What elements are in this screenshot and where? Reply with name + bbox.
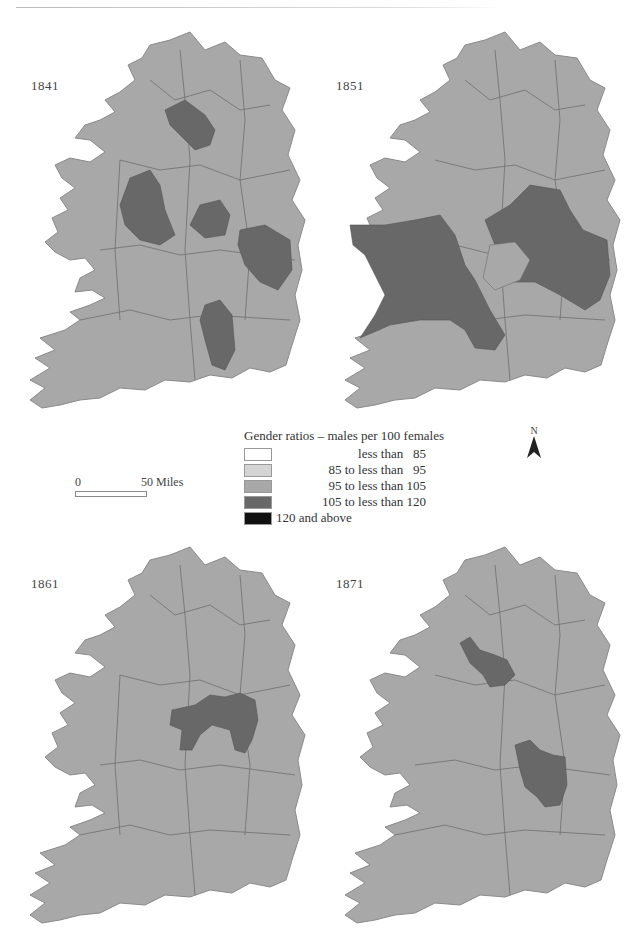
year-label-1871: 1871 [336, 576, 364, 592]
legend-label: less than 85 [276, 446, 426, 462]
legend-swatch [244, 480, 272, 493]
map-panel-1871: 1871 [315, 520, 634, 950]
legend-item: less than 85 [244, 446, 444, 462]
legend-label: 95 to less than 105 [276, 478, 426, 494]
legend-item: 105 to less than 120 [244, 494, 444, 510]
legend-swatch [244, 448, 272, 461]
map-panel-1861: 1861 [0, 520, 319, 950]
map-panel-1851: 1851 [315, 20, 634, 495]
scale-max-label: 50 Miles [141, 475, 183, 490]
legend-item: 85 to less than 95 [244, 462, 444, 478]
top-rule [16, 7, 504, 8]
legend-swatch [244, 464, 272, 477]
map-panel-1841: 1841 [0, 20, 319, 495]
year-label-1851: 1851 [336, 78, 364, 94]
legend: Gender ratios – males per 100 females le… [244, 428, 444, 526]
north-label: N [524, 426, 544, 436]
north-arrow: N [524, 426, 544, 462]
scale-zero-label: 0 [75, 475, 81, 490]
scale-bar: 0 50 Miles [75, 475, 185, 497]
year-label-1841: 1841 [31, 78, 59, 94]
legend-title: Gender ratios – males per 100 females [244, 428, 444, 444]
legend-swatch [244, 496, 272, 509]
scale-bar-graphic [75, 491, 147, 497]
north-arrow-icon [527, 436, 541, 458]
legend-label: 105 to less than 120 [276, 494, 426, 510]
legend-item: 95 to less than 105 [244, 478, 444, 494]
year-label-1861: 1861 [31, 576, 59, 592]
legend-label: 85 to less than 95 [276, 462, 426, 478]
